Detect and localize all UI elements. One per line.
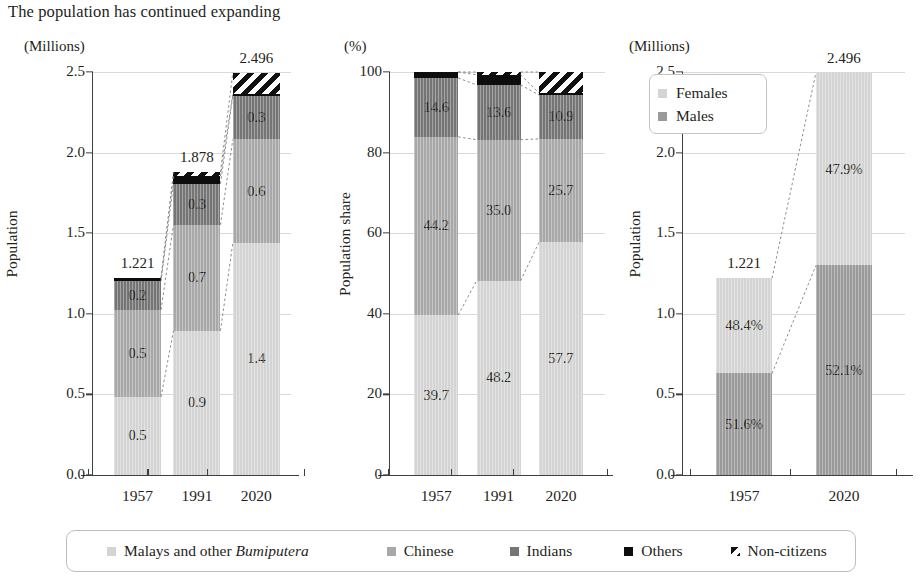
panel3-y-tick-mark [676,394,683,395]
panel2-y-tick-mark [383,71,390,72]
panel1-x-tick-mark [304,469,305,476]
panel2-y-tick-mark [383,233,390,234]
panel1-segment-chinese-2020: 0.6 [233,139,280,242]
panel2-x-tick-mark [607,469,608,476]
panel3-bar-2020[interactable]: 52.1%47.9% [816,73,872,475]
panel2-bar-2020[interactable]: 57.725.710.9 [539,72,583,475]
panel1-segment-chinese-1957: 0.5 [114,310,161,397]
panel2-segment-malays-1957: 39.7 [414,315,458,475]
panel3-y-tick-mark [676,152,683,153]
panel-population-by-sex: (Millions) Population 0.00.51.01.52.02.5… [625,30,920,530]
panel1-segment-malays-1991: 0.9 [173,331,220,475]
panel1-y-tick-mark [86,394,93,395]
panel1-unit-label: (Millions) [24,38,85,55]
panel2-segment-chinese-1957: 44.2 [414,137,458,315]
panel1-x-tick-mark [88,469,89,476]
legend-item-chinese[interactable]: Chinese [387,542,454,560]
panel1-total-label-2020: 2.496 [239,50,273,67]
panel3-x-tick-mark [896,469,897,476]
males-swatch-icon [658,112,667,121]
panel1-y-axis-title: Population [3,184,21,304]
panel2-y-tick-label: 80 [367,144,382,161]
panel3-unit-label: (Millions) [629,38,690,55]
legend-item-malays-and-other[interactable]: Malays and other Bumiputera [107,542,309,560]
panel1-segment-indians-1957: 0.2 [114,281,161,310]
panel2-segment-indians-1991: 13.6 [477,85,521,140]
panel1-segment-indians-1991: 0.3 [173,184,220,225]
panel2-y-tick-label: 20 [367,386,382,403]
panel1-segment-malays-2020: 1.4 [233,243,280,475]
panel1-segment-others-2020 [233,94,280,96]
legend-item-males: Males [658,107,758,125]
panel2-y-tick-label: 40 [367,305,382,322]
panel1-segment-malays-1957: 0.5 [114,397,161,475]
chinese-swatch-icon [387,547,396,556]
panel1-x-label-1957: 1957 [122,487,153,505]
panel2-segment-malays-1991: 48.2 [477,281,521,475]
panel2-x-label-1957: 1957 [421,487,452,505]
panel3-y-tick-mark [676,71,683,72]
panel1-y-tick-label: 2.5 [66,63,85,80]
panel3-total-label-1957: 1.221 [727,255,761,272]
panel2-y-tick-label: 60 [367,224,382,241]
panel1-bar-1957[interactable]: 0.50.50.2 [114,278,161,475]
figure: The population has continued expanding (… [0,0,920,587]
panel2-segment-malays-2020: 57.7 [539,242,583,475]
legend-item-males-label: Males [676,107,714,125]
page-title: The population has continued expanding [8,2,280,22]
panel1-bar-2020[interactable]: 1.40.60.3 [233,73,280,475]
panel1-x-label-1991: 1991 [181,487,212,505]
panel1-bar-1991[interactable]: 0.90.70.3 [173,172,220,475]
panel1-plot-area: 0.00.51.01.52.02.50.50.50.21.22119570.90… [93,72,291,475]
panel2-y-tick-mark [383,313,390,314]
panel1-segment-indians-2020: 0.3 [233,96,280,140]
legend-item-indians[interactable]: Indians [510,542,573,560]
panel3-y-tick-label: 1.0 [656,305,675,322]
females-swatch-icon [658,89,667,98]
legend-item-females-label: Females [676,84,728,102]
panel2-unit-label: (%) [344,38,367,55]
legend-item-non-citizens[interactable]: Non-citizens [731,542,827,560]
panel2-y-tick-mark [383,394,390,395]
panel1-y-tick-label: 0.0 [66,466,85,483]
legend-item-label: Malays and other Bumiputera [124,542,309,560]
panel2-segment-others-1991 [477,75,521,85]
panel3-bar-1957[interactable]: 51.6%48.4% [716,278,772,475]
panel2-plot-area: 02040608010039.744.214.6195748.235.013.6… [390,72,605,475]
panel1-total-label-1991: 1.878 [180,149,214,166]
panel3-segment-males-2020: 52.1% [816,265,872,475]
panel3-x-label-2020: 2020 [828,487,859,505]
panel3-segment-females-2020: 47.9% [816,73,872,266]
panel2-y-axis [389,72,390,475]
panel1-y-tick-mark [86,152,93,153]
legend-item-others[interactable]: Others [624,542,682,560]
legend-item-label: Non-citizens [748,542,827,560]
panel1-y-tick-label: 1.0 [66,305,85,322]
panel3-legend: Females Males [649,74,767,134]
panel2-segment-indians-2020: 10.9 [539,95,583,139]
panel2-y-tick-label: 0 [375,466,383,483]
panel2-y-axis-title: Population share [336,169,354,319]
panel2-bar-1991[interactable]: 48.235.013.6 [477,72,521,475]
panel2-y-tick-mark [383,152,390,153]
panel1-segment-noncitizens-1991 [173,172,220,176]
panel1-y-tick-mark [86,313,93,314]
panel2-x-tick-mark [451,469,452,476]
malays-swatch-icon [107,547,116,556]
panel3-y-tick-label: 0.5 [656,386,675,403]
panel1-x-tick-mark [207,469,208,476]
panel3-y-tick-label: 1.5 [656,224,675,241]
panel2-x-label-1991: 1991 [483,487,514,505]
panel1-y-tick-mark [86,233,93,234]
panel1-segment-chinese-1991: 0.7 [173,225,220,331]
panel2-x-label-2020: 2020 [545,487,576,505]
panel2-bar-1957[interactable]: 39.744.214.6 [414,72,458,475]
panel3-y-tick-label: 0.0 [656,466,675,483]
panel1-y-tick-label: 1.5 [66,224,85,241]
panel-population-millions: (Millions) Population 0.00.51.01.52.02.5… [0,30,320,530]
panel3-x-tick-mark [690,469,691,476]
panel1-y-axis [92,72,93,475]
legend-item-label: Chinese [404,542,454,560]
panel3-y-tick-mark [676,233,683,234]
panel3-y-axis-title: Population [626,184,644,304]
